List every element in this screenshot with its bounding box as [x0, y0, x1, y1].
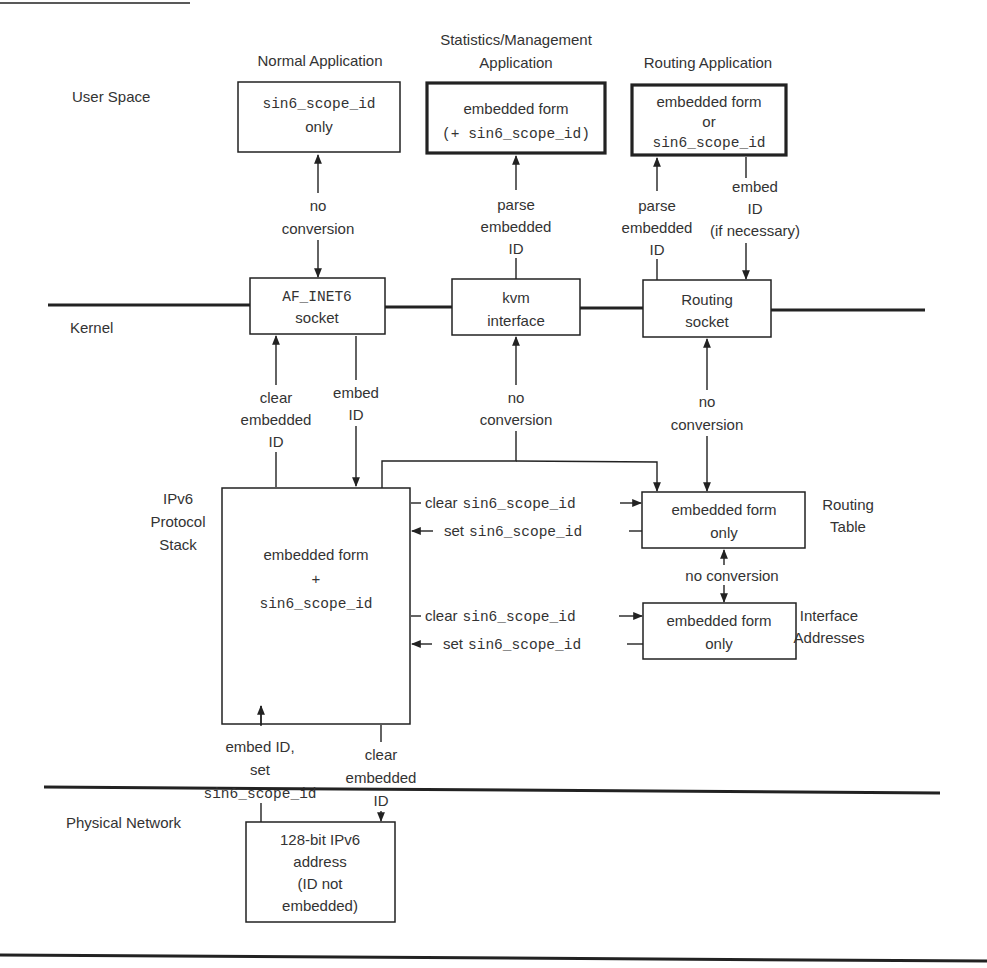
label-phys-embed: embed ID, set sin6_scope_id [203, 738, 316, 802]
svg-text:interface: interface [487, 312, 545, 329]
layer-kernel: Kernel [70, 319, 113, 336]
svg-text:embedded: embedded [241, 411, 312, 428]
label-af-clear: clear embedded ID [241, 389, 312, 450]
arrow-kvm-to-routing-table [516, 461, 657, 491]
scope-id-diagram: User Space Kernel IPv6 Protocol Stack Ph… [0, 0, 987, 968]
svg-text:Routing: Routing [822, 496, 874, 513]
svg-text:Application: Application [479, 54, 552, 71]
svg-text:embedded: embedded [481, 218, 552, 235]
svg-text:conversion: conversion [480, 411, 553, 428]
svg-text:clear: clear [260, 389, 293, 406]
svg-text:sin6_scope_id: sin6_scope_id [652, 135, 765, 151]
svg-text:socket: socket [295, 309, 339, 326]
label-normal-no-conversion: no [310, 197, 327, 214]
svg-text:address: address [293, 853, 346, 870]
svg-text:Addresses: Addresses [794, 629, 865, 646]
svg-text:no: no [508, 389, 525, 406]
svg-text:(+ sin6_scope_id): (+ sin6_scope_id) [442, 126, 590, 142]
svg-text:sin6_scope_id: sin6_scope_id [262, 96, 375, 112]
svg-text:embedded form: embedded form [656, 93, 761, 110]
svg-text:embed: embed [333, 384, 379, 401]
svg-text:ID: ID [349, 406, 364, 423]
layer-physical-network: Physical Network [66, 814, 182, 831]
svg-text:embedded: embedded [346, 769, 417, 786]
label-routing-embed: embed ID (if necessary) [710, 178, 800, 239]
svg-text:sin6_scope_id: sin6_scope_id [203, 786, 316, 802]
label-rt-clear: clearsin6_scope_id [425, 494, 576, 512]
svg-text:+: + [312, 570, 321, 587]
routing-app-title: Routing Application [644, 54, 772, 71]
svg-text:embedded: embedded [622, 219, 693, 236]
bottom-rule [0, 955, 987, 961]
svg-text:Table: Table [830, 518, 866, 535]
svg-text:IPv6: IPv6 [163, 490, 193, 507]
svg-text:no: no [699, 393, 716, 410]
svg-text:sin6_scope_id: sin6_scope_id [259, 596, 372, 612]
svg-text:ID: ID [374, 792, 389, 809]
label-rsock-no-conversion: no conversion [671, 393, 744, 433]
svg-text:only: only [705, 635, 733, 652]
svg-text:Stack: Stack [159, 536, 197, 553]
label-stats-parse: parse embedded ID [481, 196, 552, 257]
svg-text:or: or [702, 113, 715, 130]
svg-text:clear: clear [365, 746, 398, 763]
svg-text:embedded form: embedded form [263, 546, 368, 563]
svg-text:conversion: conversion [282, 220, 355, 237]
svg-text:ID: ID [269, 433, 284, 450]
svg-text:only: only [305, 118, 333, 135]
svg-text:set: set [250, 761, 271, 778]
layer-ipv6-stack: IPv6 Protocol Stack [150, 490, 205, 553]
label-kvm-no-conversion: no conversion [480, 389, 553, 428]
label-routing-parse: parse embedded ID [622, 197, 693, 258]
stats-app-box [427, 83, 605, 153]
layer-user-space: User Space [72, 88, 150, 105]
stats-app-title: Statistics/Management [440, 31, 593, 48]
interface-addresses-label: Interface Addresses [794, 607, 865, 646]
svg-text:Protocol: Protocol [150, 513, 205, 530]
svg-text:128-bit IPv6: 128-bit IPv6 [280, 831, 360, 848]
svg-text:embedded form: embedded form [463, 100, 568, 117]
svg-text:embed: embed [732, 178, 778, 195]
svg-text:parse: parse [497, 196, 535, 213]
svg-text:ID: ID [509, 240, 524, 257]
svg-text:conversion: conversion [671, 416, 744, 433]
svg-text:kvm: kvm [502, 289, 530, 306]
normal-app-box [238, 82, 400, 152]
svg-text:embedded): embedded) [282, 897, 358, 914]
svg-text:embedded form: embedded form [666, 612, 771, 629]
svg-text:embedded form: embedded form [671, 501, 776, 518]
label-af-embed: embed ID [333, 384, 379, 423]
svg-text:parse: parse [638, 197, 676, 214]
svg-text:ID: ID [650, 241, 665, 258]
svg-text:Routing: Routing [681, 291, 733, 308]
svg-text:(if necessary): (if necessary) [710, 222, 800, 239]
svg-text:socket: socket [685, 313, 729, 330]
label-rt-set: setsin6_scope_id [444, 522, 582, 540]
svg-text:(ID not: (ID not [297, 875, 343, 892]
svg-text:only: only [710, 524, 738, 541]
label-rt-if-no-conversion: no conversion [685, 567, 778, 584]
normal-app-title: Normal Application [257, 52, 382, 69]
svg-text:AF_INET6: AF_INET6 [282, 289, 352, 305]
label-phys-clear: clear embedded ID [346, 746, 417, 809]
svg-text:ID: ID [748, 200, 763, 217]
routing-table-label: Routing Table [822, 496, 874, 535]
label-if-set: setsin6_scope_id [443, 635, 581, 653]
label-if-clear: clearsin6_scope_id [425, 607, 576, 625]
physical-boundary-line [44, 787, 940, 793]
svg-text:embed ID,: embed ID, [225, 738, 294, 755]
svg-text:Interface: Interface [800, 607, 858, 624]
